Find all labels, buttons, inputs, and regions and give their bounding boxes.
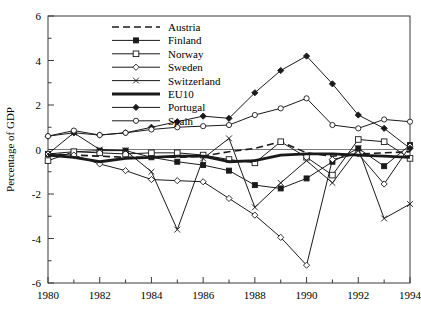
legend-item-norway[interactable]: Norway [112,48,204,60]
data-point-marker [381,139,387,145]
x-axis-tick-label: 1990 [296,289,319,301]
data-point-marker [133,64,139,70]
legend-item-finland[interactable]: Finland [112,34,202,46]
data-point-marker [45,158,51,164]
series-switzerland [45,130,413,233]
data-point-marker [122,168,128,174]
legend-label: Finland [168,34,202,46]
chart-figure: 6420-2-4-6198019821984198619881990199219… [0,0,421,312]
y-axis-tick-label: -4 [32,233,42,245]
data-point-marker [45,134,50,139]
data-point-marker [382,164,387,169]
legend-label: EU10 [168,88,194,100]
x-axis-tick-label: 1988 [244,289,267,301]
data-point-marker [226,135,232,141]
x-axis-tick-label: 1986 [192,289,215,301]
data-point-marker [123,130,128,135]
x-axis-tick-label: 1992 [347,289,369,301]
data-point-marker [200,113,206,119]
data-point-marker [304,176,309,181]
legend: AustriaFinlandNorwaySwedenSwitzerlandEU1… [112,21,221,127]
data-point-marker [200,179,206,185]
data-point-marker [330,180,336,186]
data-point-marker [175,159,180,164]
legend-item-austria[interactable]: Austria [112,21,201,33]
data-point-marker [71,128,76,133]
data-point-marker [330,172,336,178]
legend-label: Spain [168,115,194,127]
data-point-marker [304,96,309,101]
data-point-marker [97,132,102,137]
y-axis-tick-label: 2 [36,99,42,111]
x-axis-tick-label: 1984 [140,289,163,301]
data-point-marker [252,112,257,117]
data-point-marker [174,227,180,233]
data-point-marker [278,139,284,145]
y-axis-tick-label: -6 [32,277,42,289]
x-axis-tick-label: 1982 [89,289,111,301]
data-point-marker [356,126,361,131]
data-point-marker [226,122,231,127]
legend-label: Austria [168,21,201,33]
data-point-marker [149,127,154,132]
data-point-marker [226,195,232,201]
data-point-marker [252,183,257,188]
y-axis-tick-label: -2 [32,188,41,200]
data-point-marker [201,124,206,129]
x-axis-tick-label: 1994 [399,289,421,301]
x-axis-tick-label: 1980 [37,289,60,301]
data-point-marker [278,106,283,111]
legend-item-portugal[interactable]: Portugal [112,101,205,113]
data-point-marker [133,104,139,110]
data-point-marker [133,118,138,123]
data-point-marker [278,186,283,191]
legend-item-eu10[interactable]: EU10 [112,88,194,100]
legend-label: Norway [168,48,204,60]
line-chart-svg: 6420-2-4-6198019821984198619881990199219… [0,0,421,312]
data-point-marker [133,51,139,57]
data-point-marker [149,169,155,175]
legend-item-switzerland[interactable]: Switzerland [112,75,221,87]
data-point-marker [227,168,232,173]
data-point-marker [252,204,258,210]
legend-label: Sweden [168,61,203,73]
data-point-marker [381,216,387,222]
data-point-marker [382,117,387,122]
data-point-marker [355,137,361,143]
y-axis-tick-label: 4 [36,55,42,67]
legend-item-sweden[interactable]: Sweden [112,61,203,73]
data-point-marker [278,180,284,186]
data-point-marker [174,178,180,184]
legend-label: Switzerland [168,75,221,87]
y-axis-tick-label: 6 [36,10,42,22]
data-point-marker [330,122,335,127]
legend-label: Portugal [168,101,205,113]
y-axis-title: Percentage of GDP [4,107,16,192]
data-point-marker [134,38,139,43]
y-axis-tick-label: 0 [36,144,42,156]
data-point-marker [407,119,412,124]
data-point-marker [149,150,155,156]
